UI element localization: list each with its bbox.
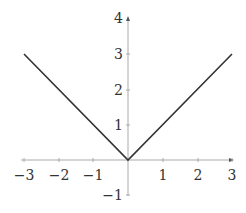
x-tick-label: −3 (14, 167, 35, 183)
x-tick-label: 3 (228, 167, 237, 183)
y-tick-label: 2 (114, 82, 123, 98)
x-tick-label: 1 (159, 167, 168, 183)
y-axis (126, 16, 130, 196)
x-tick-label: −1 (83, 167, 104, 183)
x-tick-label: 2 (194, 167, 203, 183)
plot: −3 −2 −1 1 2 3 −1 1 2 3 4 (0, 0, 246, 213)
x-tick-label: −2 (49, 167, 70, 183)
y-tick-label: 4 (114, 10, 123, 26)
y-axis-arrow-icon (126, 16, 130, 21)
y-tick-label: 3 (114, 46, 123, 62)
y-tick-label: 1 (114, 117, 123, 133)
y-tick-label: −1 (102, 187, 123, 203)
